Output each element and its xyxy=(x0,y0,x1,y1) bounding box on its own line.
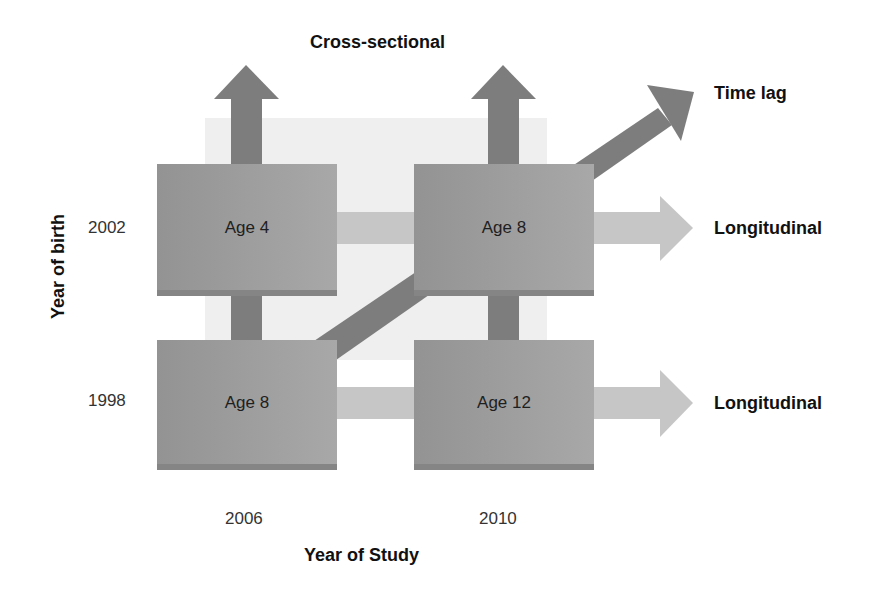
vertical-connector-left xyxy=(231,290,262,342)
box-label-age-8-bottom: Age 8 xyxy=(157,393,337,413)
x-tick-2010: 2010 xyxy=(479,509,517,529)
x-tick-2006: 2006 xyxy=(225,509,263,529)
box-label-age-8-top: Age 8 xyxy=(414,218,594,238)
y-tick-2002: 2002 xyxy=(88,218,126,238)
y-axis-title: Year of birth xyxy=(48,197,69,337)
x-axis-title: Year of Study xyxy=(304,545,419,566)
cross-sectional-label: Cross-sectional xyxy=(310,32,445,53)
vertical-connector-right xyxy=(488,290,519,342)
longitudinal-label-bottom: Longitudinal xyxy=(714,393,822,414)
y-tick-1998: 1998 xyxy=(88,391,126,411)
longitudinal-label-top: Longitudinal xyxy=(714,218,822,239)
box-label-age-12: Age 12 xyxy=(414,393,594,413)
research-design-diagram: Age 4 Age 8 Age 8 Age 12 Cross-sectional… xyxy=(0,0,886,591)
time-lag-label: Time lag xyxy=(714,83,787,104)
box-label-age-4: Age 4 xyxy=(157,218,337,238)
